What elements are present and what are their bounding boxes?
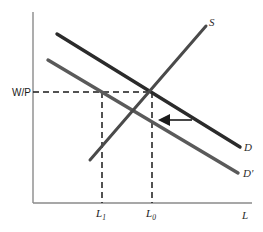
shift-arrow-head [158, 114, 170, 126]
x-tick-l0-sub: 0 [152, 213, 156, 222]
chart-canvas: W/P L1 L0 L S D D' [0, 0, 263, 232]
x-tick-l1-label: L1 [95, 207, 106, 222]
supply-curve-label: S [209, 16, 215, 28]
demand-curve-label: D [243, 141, 252, 153]
x-tick-l1-sub: 1 [102, 213, 106, 222]
y-axis-value-label: W/P [12, 87, 31, 98]
x-tick-l0-label: L0 [145, 207, 156, 222]
curves-group [48, 26, 240, 173]
labor-market-diagram: W/P L1 L0 L S D D' [0, 0, 263, 232]
x-tick-l0-base: L [145, 207, 152, 219]
demand-shift-curve-label: D' [242, 167, 254, 179]
supply-curve-S [90, 26, 206, 160]
x-tick-l1-base: L [95, 207, 102, 219]
demand-curve-D-prime [48, 60, 238, 173]
x-axis-name-label: L [241, 209, 248, 221]
